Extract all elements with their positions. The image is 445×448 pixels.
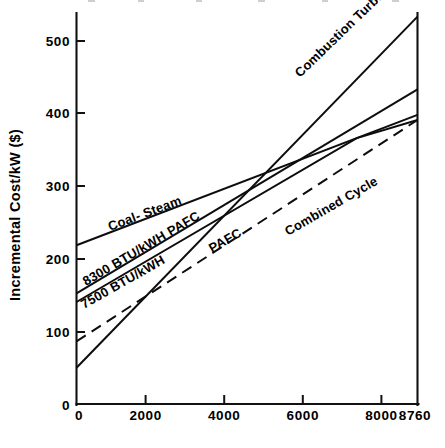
x-tick-label-2000: 2000	[129, 408, 161, 423]
chart-canvas: 500 400 300 200 100 0 0 2000 4000 6000 8…	[0, 0, 445, 448]
x-tick-label-0: 0	[75, 408, 83, 423]
series-label-combustion-turbine: Combustion Turbine	[292, 0, 396, 80]
series-label-combined-cycle: Combined Cycle	[282, 173, 380, 238]
x-tick-label-8760: 8760	[399, 408, 431, 423]
series-annotations: Coal- Steam 8300 BTU/kWH PAFC 7500 BTU/k…	[78, 0, 395, 312]
y-tick-label-400: 400	[46, 106, 70, 121]
x-tick-label-4000: 4000	[208, 408, 240, 423]
x-tick-label-8000: 8000	[365, 408, 397, 423]
y-tick-label-500: 500	[46, 34, 70, 49]
y-tick-label-200: 200	[46, 252, 70, 267]
chart-figure: 500 400 300 200 100 0 0 2000 4000 6000 8…	[0, 0, 445, 448]
y-tick-label-100: 100	[46, 325, 70, 340]
y-tick-label-0: 0	[62, 398, 70, 413]
y-tick-label-300: 300	[46, 179, 70, 194]
x-tick-labels: 0 2000 4000 6000 8000 8760	[75, 408, 431, 423]
y-axis-title: Incremental Cost/kW ($)	[7, 129, 23, 301]
x-tick-marks	[146, 395, 382, 404]
x-tick-label-6000: 6000	[287, 408, 319, 423]
axis-group	[77, 13, 419, 405]
series-line-combined-cycle	[77, 120, 418, 341]
y-tick-labels: 500 400 300 200 100 0	[46, 34, 70, 413]
